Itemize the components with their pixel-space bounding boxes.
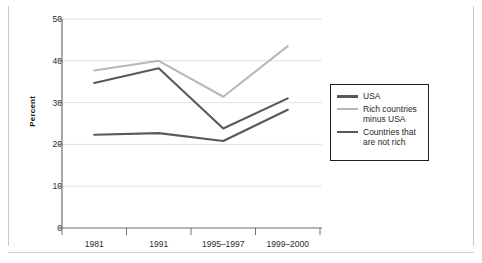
legend-swatch-icon bbox=[337, 95, 358, 98]
series-line-2 bbox=[94, 110, 288, 141]
chart-figure: Percent 01020304050 USARich countries mi… bbox=[0, 0, 482, 263]
chart-legend: USARich countries minus USACountries tha… bbox=[330, 84, 429, 161]
series-line-0 bbox=[94, 68, 288, 128]
x-tick-label: 1999–2000 bbox=[248, 240, 328, 249]
legend-label: Rich countries minus USA bbox=[363, 104, 417, 125]
legend-item: USA bbox=[337, 91, 423, 102]
legend-item: Rich countries minus USA bbox=[337, 104, 423, 125]
legend-swatch-icon bbox=[337, 108, 358, 111]
legend-item: Countries that are not rich bbox=[337, 127, 423, 148]
legend-label: Countries that are not rich bbox=[363, 127, 416, 148]
series-line-1 bbox=[94, 46, 288, 97]
legend-label: USA bbox=[363, 91, 380, 102]
legend-swatch-icon bbox=[337, 131, 358, 134]
